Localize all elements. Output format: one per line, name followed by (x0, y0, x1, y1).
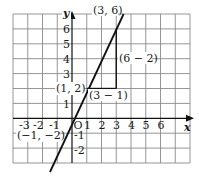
svg-text:6: 6 (63, 23, 70, 36)
svg-text:3: 3 (113, 119, 120, 132)
svg-text:4: 4 (128, 119, 135, 132)
svg-text:5: 5 (63, 38, 70, 51)
rise-label: (6 − 2) (119, 52, 158, 65)
svg-text:-2: -2 (74, 144, 85, 157)
point-label-neg1-neg2: (−1, −2) (17, 129, 65, 142)
svg-text:3: 3 (63, 68, 70, 81)
point-label-3-6: (3, 6) (93, 4, 123, 17)
svg-text:-1: -1 (74, 129, 85, 142)
svg-text:1: 1 (84, 119, 91, 132)
svg-text:4: 4 (63, 53, 70, 66)
svg-text:2: 2 (99, 119, 106, 132)
svg-text:6: 6 (158, 119, 165, 132)
run-label: (3 − 1) (89, 89, 128, 102)
svg-text:1: 1 (63, 98, 70, 111)
x-axis-label: x (183, 121, 191, 134)
coordinate-plane: y x O -3 -2 -1 1 2 3 4 5 6 6 5 4 3 1 -1 … (0, 0, 199, 177)
svg-text:5: 5 (143, 119, 150, 132)
point-label-1-2: (1, 2) (56, 82, 86, 95)
